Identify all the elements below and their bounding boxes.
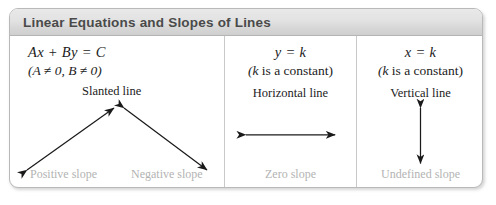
equation-vertical: x = k [357,44,483,61]
line-type-slanted: Slanted line [10,84,224,99]
card-title: Linear Equations and Slopes of Lines [10,15,271,30]
card-header: Linear Equations and Slopes of Lines [10,9,482,36]
panel-slanted-line: Ax + By = C (A ≠ 0, B ≠ 0) Slanted line … [10,36,224,188]
slope-label-undefined: Undefined slope [357,167,483,182]
equation-horizontal: y = k [225,44,356,61]
condition-vertical: (k is a constant) [357,63,483,79]
panels-container: Ax + By = C (A ≠ 0, B ≠ 0) Slanted line … [10,36,482,188]
panel-vertical-line: x = k (k is a constant) Vertical line Un… [356,36,483,188]
slope-label-zero: Zero slope [225,167,356,182]
linear-equations-summary-card: Linear Equations and Slopes of Lines Ax … [9,8,483,188]
equation-slanted: Ax + By = C [10,44,224,61]
slope-label-positive: Positive slope [30,167,97,182]
line-type-vertical: Vertical line [357,86,483,101]
panel-horizontal-line: y = k (k is a constant) Horizontal line … [224,36,356,188]
condition-slanted: (A ≠ 0, B ≠ 0) [10,63,224,79]
figure-root: Linear Equations and Slopes of Lines Ax … [0,0,496,205]
line-type-horizontal: Horizontal line [225,86,356,101]
slope-label-negative: Negative slope [131,167,203,182]
condition-horizontal: (k is a constant) [225,63,356,79]
